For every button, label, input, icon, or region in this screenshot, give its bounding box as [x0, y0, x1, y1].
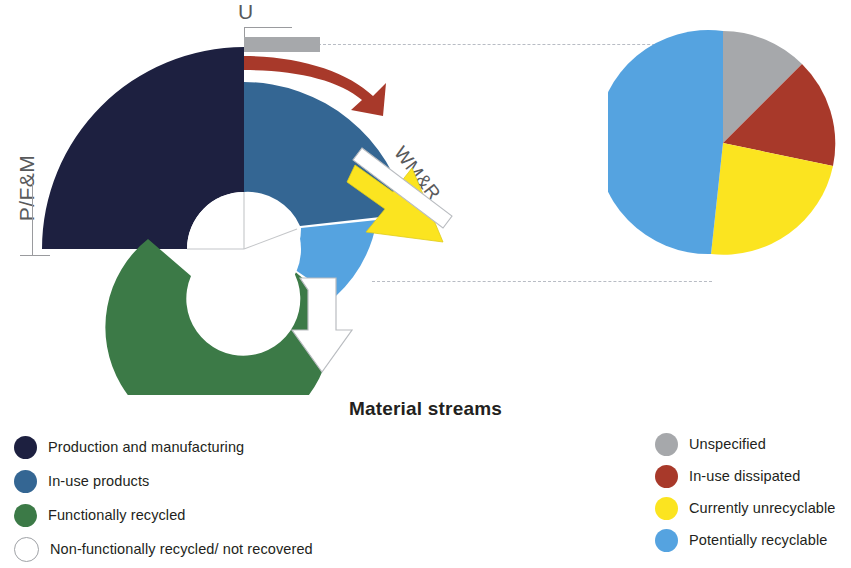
legend-swatch-icon: [655, 433, 678, 456]
legend-item-unspecified: Unspecified: [655, 428, 835, 460]
legend-swatch-icon: [655, 497, 678, 520]
legend-waste-composition: Unspecified In-use dissipated Currently …: [655, 428, 835, 556]
pie-slice-potentially-recyclable: [608, 30, 723, 254]
bar-unspecified: [244, 37, 320, 52]
legend-label: Non-functionally recycled/ not recovered: [50, 541, 313, 557]
legend-label: Unspecified: [689, 436, 766, 452]
legend-item-functionally-recycled: Functionally recycled: [14, 498, 313, 532]
legend-item-production-and-manufacturing: Production and manufacturing: [14, 430, 313, 464]
legend-swatch-icon: [14, 537, 39, 562]
legend-item-currently-unrecyclable: Currently unrecyclable: [655, 492, 835, 524]
legend-label: Currently unrecyclable: [689, 500, 835, 516]
legend-item-non-functionally-recycled: Non-functionally recycled/ not recovered: [14, 532, 313, 566]
legend-swatch-icon: [14, 436, 37, 459]
waste-composition-pie: [608, 28, 838, 258]
legend-swatch-icon: [655, 465, 678, 488]
material-flow-donut: [0, 0, 470, 395]
legend-label: In-use products: [48, 473, 149, 489]
figure-root: P/F&M U WM&R: [0, 0, 851, 568]
legend-label: Functionally recycled: [48, 507, 186, 523]
legend-label: Production and manufacturing: [48, 439, 244, 455]
pie-svg: [608, 28, 838, 258]
legend-material-streams: Production and manufacturing In-use prod…: [14, 430, 313, 566]
legend-swatch-icon: [14, 504, 37, 527]
donut-svg: [0, 0, 470, 395]
page-title: Material streams: [0, 398, 851, 420]
legend-item-in-use-dissipated: In-use dissipated: [655, 460, 835, 492]
legend-item-potentially-recyclable: Potentially recyclable: [655, 524, 835, 556]
legend-item-in-use-products: In-use products: [14, 464, 313, 498]
legend-label: In-use dissipated: [689, 468, 800, 484]
legend-label: Potentially recyclable: [689, 532, 827, 548]
legend-swatch-icon: [14, 470, 37, 493]
legend-swatch-icon: [655, 529, 678, 552]
